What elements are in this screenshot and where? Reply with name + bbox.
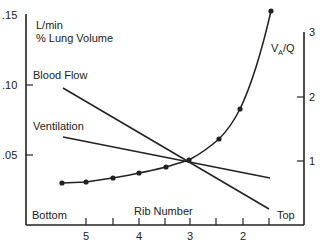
x-tick-label: 4 [136,230,142,242]
y-left-label-units: L/min [36,19,63,31]
series-ventilation [63,137,270,178]
y-tick-label: .05 [2,149,17,161]
series-label-ventilation: Ventilation [33,120,84,132]
y-tick-label: .10 [2,79,17,91]
y-left-label-volume: % Lung Volume [36,32,113,44]
y-tick-label: .15 [2,9,17,21]
y-right-label: VA/Q [271,42,295,56]
x-tick-label: 5 [83,230,89,242]
series-label-blood-flow: Blood Flow [33,69,87,81]
right-y-tick-labels: 3 2 1 [309,26,315,167]
x-tick-label: 2 [240,230,246,242]
series-blood-flow [63,88,269,209]
x-tick-labels: 5 4 3 2 [83,230,246,242]
y-right-tick-label: 1 [309,155,315,167]
left-y-ticks [26,85,33,155]
x-end-label-bottom: Bottom [32,209,67,221]
x-end-label-top: Top [277,209,295,221]
x-axis-label: Rib Number [134,205,193,217]
right-y-ticks [297,97,304,161]
x-tick-label: 3 [187,230,193,242]
y-right-tick-label: 3 [309,26,315,38]
left-y-tick-labels: .15 .10 .05 [2,9,17,161]
chart: .15 .10 .05 3 2 1 5 4 3 2 L/min % Lung V… [0,0,320,244]
x-ticks [86,218,269,225]
y-right-tick-label: 2 [309,91,315,103]
